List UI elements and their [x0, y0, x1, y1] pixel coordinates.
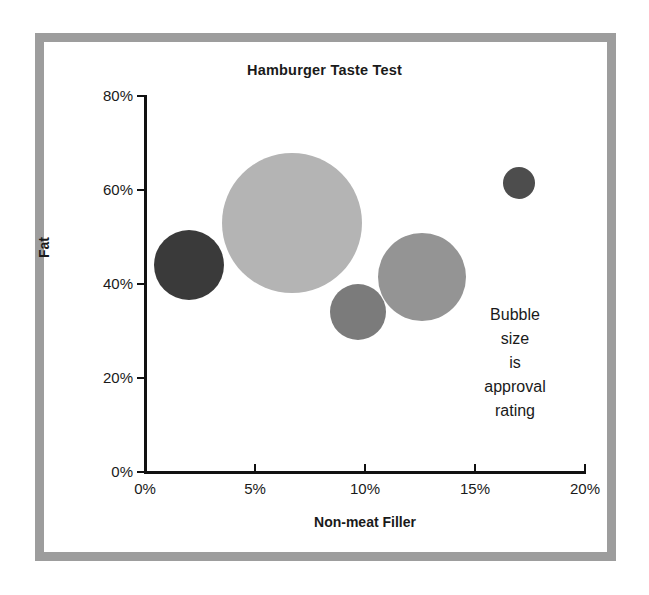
bubble-point — [503, 167, 535, 199]
x-axis-tick — [364, 464, 366, 473]
bubble-point — [222, 153, 362, 293]
bubble-point — [154, 230, 224, 300]
annotation-line: approval — [440, 375, 590, 399]
x-axis-tick — [254, 464, 256, 473]
x-axis-title: Non-meat Filler — [145, 514, 585, 530]
y-axis-tick — [137, 95, 146, 97]
annotation-line: is — [440, 351, 590, 375]
y-axis-tick — [137, 189, 146, 191]
annotation-line: Bubble — [440, 303, 590, 327]
y-axis-tick-label: 40% — [81, 275, 133, 292]
y-axis-title: Fat — [36, 237, 52, 258]
y-axis-tick-label: 20% — [81, 369, 133, 386]
annotation-line: size — [440, 327, 590, 351]
y-axis-tick-label: 0% — [81, 463, 133, 480]
y-axis-tick-label: 80% — [81, 87, 133, 104]
bubble-size-annotation: Bubblesizeisapprovalrating — [440, 303, 590, 423]
y-axis-tick — [137, 377, 146, 379]
x-axis-tick — [474, 464, 476, 473]
x-axis-tick-label: 5% — [225, 480, 285, 497]
x-axis-tick-label: 20% — [555, 480, 615, 497]
figure-root: Hamburger Taste Test 0%20%40%60%80% 0%5%… — [0, 0, 649, 595]
x-axis-tick-label: 10% — [335, 480, 395, 497]
chart-title: Hamburger Taste Test — [0, 62, 649, 78]
y-axis-tick-label: 60% — [81, 181, 133, 198]
y-axis-tick — [137, 283, 146, 285]
x-axis-tick-label: 0% — [115, 480, 175, 497]
annotation-line: rating — [440, 399, 590, 423]
x-axis-tick — [584, 464, 586, 473]
x-axis-tick — [144, 464, 146, 473]
x-axis-tick-label: 15% — [445, 480, 505, 497]
